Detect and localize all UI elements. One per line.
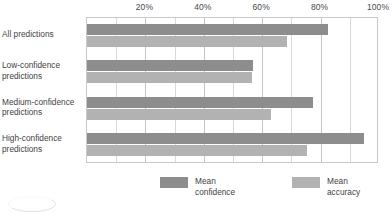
bar-accuracy-group-0 bbox=[87, 36, 287, 47]
legend-item-confidence[interactable]: Meanconfidence bbox=[160, 176, 235, 197]
x-axis-tick-labels: 20%40%60%80%100% bbox=[0, 1, 392, 16]
category-label-line: predictions bbox=[2, 71, 84, 82]
x-tick-label-40: 40% bbox=[194, 1, 211, 14]
bar-confidence-group-1 bbox=[87, 60, 253, 71]
category-label-3: High-confidencepredictions bbox=[2, 133, 84, 154]
legend-swatch-confidence bbox=[160, 177, 188, 188]
category-label-line: predictions bbox=[2, 107, 84, 118]
bar-chart: 20%40%60%80%100% All predictionsLow-conf… bbox=[0, 0, 392, 213]
legend-label-line: accuracy bbox=[327, 187, 360, 198]
chart-legend: MeanconfidenceMeanaccuracy bbox=[160, 176, 392, 202]
bar-confidence-group-3 bbox=[87, 133, 364, 144]
x-tick-label-100: 100% bbox=[367, 1, 389, 14]
x-tick-label-60: 60% bbox=[253, 1, 270, 14]
scan-artifact bbox=[8, 196, 56, 212]
legend-swatch-accuracy bbox=[292, 177, 320, 188]
bar-confidence-group-0 bbox=[87, 24, 328, 35]
bars-layer bbox=[87, 18, 377, 162]
legend-label-line: Mean bbox=[327, 176, 360, 187]
bar-accuracy-group-2 bbox=[87, 109, 271, 120]
legend-label-line: Mean bbox=[195, 176, 235, 187]
bar-confidence-group-2 bbox=[87, 97, 313, 108]
category-label-line: Medium-confidence bbox=[2, 97, 84, 108]
bar-accuracy-group-1 bbox=[87, 72, 252, 83]
legend-item-accuracy[interactable]: Meanaccuracy bbox=[292, 176, 360, 197]
category-label-0: All predictions bbox=[2, 29, 84, 40]
category-label-line: All predictions bbox=[2, 29, 84, 40]
category-label-2: Medium-confidencepredictions bbox=[2, 97, 84, 118]
x-tick-label-20: 20% bbox=[136, 1, 153, 14]
bar-accuracy-group-3 bbox=[87, 145, 307, 156]
legend-label-accuracy: Meanaccuracy bbox=[327, 176, 360, 197]
legend-label-confidence: Meanconfidence bbox=[195, 176, 235, 197]
category-label-1: Low-confidencepredictions bbox=[2, 60, 84, 81]
category-label-line: predictions bbox=[2, 144, 84, 155]
plot-area bbox=[86, 17, 378, 163]
category-label-line: Low-confidence bbox=[2, 60, 84, 71]
category-label-line: High-confidence bbox=[2, 133, 84, 144]
category-labels: All predictionsLow-confidencepredictions… bbox=[0, 17, 84, 163]
x-tick-label-80: 80% bbox=[311, 1, 328, 14]
legend-label-line: confidence bbox=[195, 187, 235, 198]
